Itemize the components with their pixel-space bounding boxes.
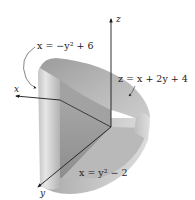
- back-surface-equation: x = −y² + 6: [37, 41, 94, 51]
- top-surface-equation: z = x + 2y + 4: [118, 74, 188, 84]
- y-axis-label: y: [40, 189, 45, 198]
- front-surface-equation: x = y² − 2: [79, 168, 128, 178]
- back-curved-surface: [38, 60, 60, 189]
- x-axis-label: x: [14, 85, 19, 94]
- z-axis-label: z: [116, 15, 121, 24]
- leader-arrow-back-surface: [23, 47, 36, 88]
- solid-region-figure: z x y x = −y² + 6 z = x + 2y + 4 x = y² …: [0, 0, 195, 200]
